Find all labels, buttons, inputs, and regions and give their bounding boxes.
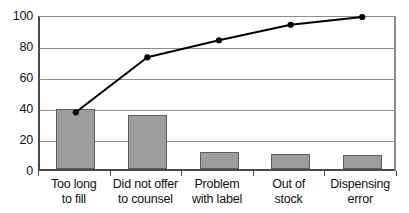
x-axis-label-4: Dispensingerror — [324, 177, 396, 207]
y-tick-label-40: 40 — [3, 103, 33, 115]
y-tick-label-60: 60 — [3, 72, 33, 84]
cumulative-line-layer — [40, 17, 398, 172]
pareto-chart: 100 80 60 40 20 0 Too longto fillDid not… — [0, 0, 409, 213]
y-axis: 100 80 60 40 20 0 — [0, 0, 33, 213]
x-axis-label-line2: error — [324, 192, 396, 207]
x-tick-0 — [38, 171, 39, 176]
x-axis-label-line1: Dispensing — [330, 177, 390, 191]
line-marker-1 — [144, 54, 150, 60]
plot-area — [38, 16, 396, 171]
line-marker-0 — [73, 109, 79, 115]
y-tick-label-100: 100 — [3, 10, 33, 22]
cumulative-line — [76, 17, 362, 112]
line-marker-3 — [288, 22, 294, 28]
x-axis-label-1: Did not offerto counsel — [110, 177, 182, 207]
x-axis-label-line2: to counsel — [110, 192, 182, 207]
x-tick-3 — [253, 171, 254, 176]
y-tick-label-0: 0 — [3, 165, 33, 177]
y-tick-label-20: 20 — [3, 134, 33, 146]
x-axis-labels: Too longto fillDid not offerto counselPr… — [38, 177, 396, 213]
x-axis-label-line1: Too long — [51, 177, 97, 191]
x-axis-label-line2: stock — [253, 192, 325, 207]
y-tick-label-80: 80 — [3, 41, 33, 53]
x-axis-label-3: Out ofstock — [253, 177, 325, 207]
x-axis-label-line1: Did not offer — [113, 177, 178, 191]
x-tick-1 — [110, 171, 111, 176]
x-tick-4 — [324, 171, 325, 176]
x-tick-5 — [396, 171, 397, 176]
line-marker-4 — [359, 14, 365, 20]
x-axis-label-line1: Problem — [194, 177, 239, 191]
x-axis-label-line1: Out of — [272, 177, 305, 191]
x-axis-label-2: Problemwith label — [181, 177, 253, 207]
x-axis-label-line2: to fill — [38, 192, 110, 207]
x-tick-2 — [181, 171, 182, 176]
x-axis-label-0: Too longto fill — [38, 177, 110, 207]
line-marker-2 — [216, 37, 222, 43]
x-axis-label-line2: with label — [181, 192, 253, 207]
